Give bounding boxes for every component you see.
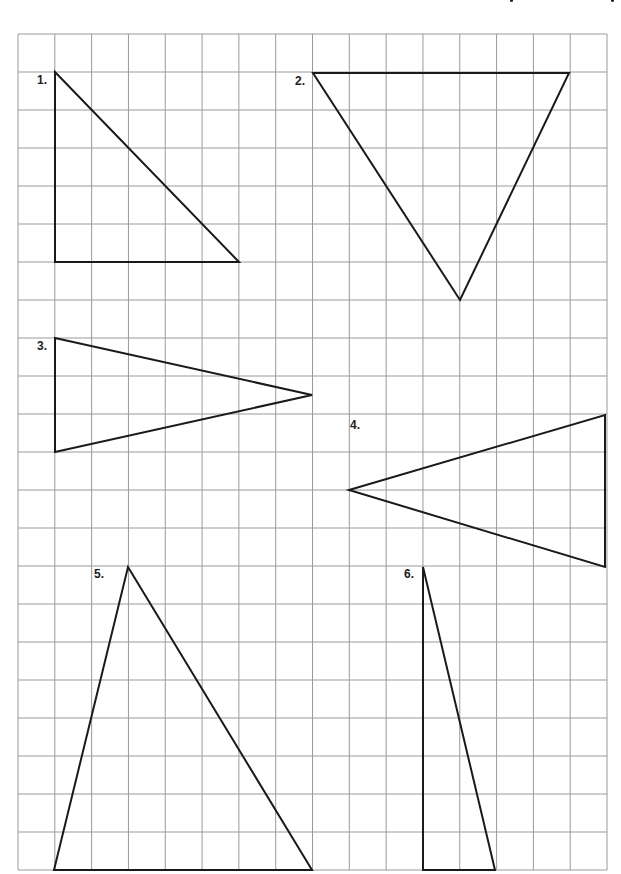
- triangle-label-6: 6.: [404, 567, 414, 581]
- triangle-label-2: 2.: [295, 74, 305, 88]
- triangles: [54, 72, 605, 870]
- square-grid: [18, 34, 607, 870]
- triangle-1: [55, 72, 239, 262]
- triangle-label-3: 3.: [37, 339, 47, 353]
- triangle-4: [349, 415, 605, 567]
- triangle-label-4: 4.: [350, 418, 360, 432]
- triangle-label-5: 5.: [94, 567, 104, 581]
- triangle-worksheet-grid: [0, 0, 621, 874]
- triangle-label-1: 1.: [37, 73, 47, 87]
- triangle-3: [55, 338, 312, 452]
